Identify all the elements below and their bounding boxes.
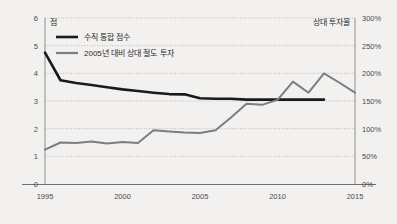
left-axis-unit-label: 점 — [50, 17, 57, 27]
left-tick-0: 0 — [34, 180, 38, 189]
legend-label-score: 수직 통합 점수 — [84, 32, 130, 42]
left-tick-6: 6 — [34, 14, 38, 23]
line-chart: 0123456 0%50%100%150%200%250%300% 199520… — [0, 0, 397, 224]
legend-label-investment: 2005년 대비 상대 철도 투자 — [84, 48, 175, 58]
right-tick-300pct: 300% — [362, 14, 382, 23]
right-tick-150pct: 150% — [362, 97, 382, 106]
x-tick-2010: 2010 — [269, 192, 286, 201]
left-tick-4: 4 — [34, 69, 38, 78]
left-tick-1: 1 — [34, 152, 38, 161]
x-tick-1995: 1995 — [37, 192, 54, 201]
x-tick-2000: 2000 — [114, 192, 131, 201]
left-tick-3: 3 — [34, 97, 38, 106]
right-tick-250pct: 250% — [362, 42, 382, 51]
x-tick-2015: 2015 — [347, 192, 364, 201]
chart-background — [0, 0, 397, 224]
chart-container: 0123456 0%50%100%150%200%250%300% 199520… — [0, 0, 397, 224]
right-tick-200pct: 200% — [362, 69, 382, 78]
x-tick-2005: 2005 — [192, 192, 209, 201]
left-tick-2: 2 — [34, 125, 38, 134]
right-tick-0pct: 0% — [362, 180, 373, 189]
right-axis-unit-label: 상대 투자율 — [313, 17, 350, 27]
right-tick-50pct: 50% — [362, 152, 377, 161]
right-tick-100pct: 100% — [362, 125, 382, 134]
left-tick-5: 5 — [34, 42, 38, 51]
